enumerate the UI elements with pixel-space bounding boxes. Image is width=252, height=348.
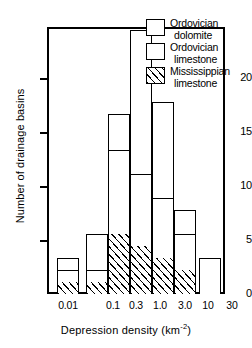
y-tick-label-15: 15 (222, 126, 252, 137)
bar-5-segment-ordovician-limestone (174, 234, 196, 270)
legend-label-ordovician-limestone: Ordovician limestone (170, 42, 218, 65)
bar-4[interactable] (152, 102, 174, 294)
legend-label-line2-0: dolomite (170, 30, 218, 42)
legend-label-mississippian-limestone: Mississippian limestone (170, 66, 230, 89)
legend-label-line1-2: Mississippian (170, 65, 230, 77)
x-tick-label-2: 0.3 (129, 300, 143, 311)
x-axis-unit-open: (km (161, 324, 180, 336)
legend-label-line2-2: limestone (170, 78, 230, 90)
bar-3-segment-mississippian (130, 246, 152, 294)
legend-label-line2-1: limestone (170, 54, 218, 66)
x-tick-label-4: 3.0 (178, 300, 192, 311)
histogram-figure: Number of drainage basins 20 15 10 5 0 (0, 0, 252, 348)
bar-6[interactable] (199, 258, 221, 294)
legend-item-ordovician-dolomite: Ordovician dolomite (146, 18, 250, 41)
bar-0-segment-ordovician-dolomite (57, 258, 79, 270)
x-tick-label-5: 10 (202, 300, 213, 311)
y-tick-label-10: 10 (222, 180, 252, 191)
x-axis-title-main: Depression density (61, 324, 158, 336)
x-tick-label-1: 0.1 (106, 300, 120, 311)
bar-0[interactable] (57, 258, 79, 294)
bar-2-segment-ordovician-limestone (108, 150, 130, 234)
x-axis-unit-close: ) (187, 324, 191, 336)
bar-1[interactable] (86, 234, 108, 294)
x-axis-title: Depression density (km-2) (0, 322, 252, 336)
y-tick-label-5: 5 (222, 234, 252, 245)
bar-4-segment-mississippian (152, 258, 174, 294)
white-swatch-icon (146, 19, 165, 36)
bar-5-segment-ordovician-dolomite (174, 210, 196, 234)
hatched-swatch-icon (146, 67, 165, 84)
legend-item-ordovician-limestone: Ordovician limestone (146, 42, 250, 65)
legend-label-ordovician-dolomite: Ordovician dolomite (170, 18, 218, 41)
legend-item-mississippian-limestone: Mississippian limestone (146, 66, 250, 89)
bar-1-segment-ordovician-dolomite (86, 234, 108, 270)
bar-2-segment-mississippian (108, 234, 130, 294)
bar-4-segment-ordovician-limestone (152, 198, 174, 258)
x-tick-label-3: 1.0 (153, 300, 167, 311)
bar-2-segment-ordovician-dolomite (108, 114, 130, 150)
legend: Ordovician dolomite Ordovician limestone… (146, 18, 250, 90)
x-tick-label-0: 0.01 (58, 300, 78, 311)
bar-0-segment-mississippian (57, 282, 79, 294)
bar-2[interactable] (108, 114, 130, 294)
dotted-swatch-icon (146, 43, 165, 60)
bar-0-segment-ordovician-limestone (57, 270, 79, 282)
bar-5-segment-mississippian (174, 270, 196, 294)
x-tick-label-6: 30 (226, 300, 237, 311)
bar-5[interactable] (174, 210, 196, 294)
bar-4-segment-ordovician-dolomite (152, 102, 174, 198)
legend-label-line1-0: Ordovician (170, 17, 218, 29)
bar-6-segment-ordovician-limestone (199, 258, 221, 294)
bar-3-segment-ordovician-limestone (130, 174, 152, 246)
bar-1-segment-ordovician-limestone (86, 270, 108, 282)
bar-1-segment-mississippian (86, 282, 108, 294)
y-tick-label-0: 0 (222, 288, 252, 299)
y-axis-title: Number of drainage basins (14, 76, 26, 236)
legend-label-line1-1: Ordovician (170, 41, 218, 53)
